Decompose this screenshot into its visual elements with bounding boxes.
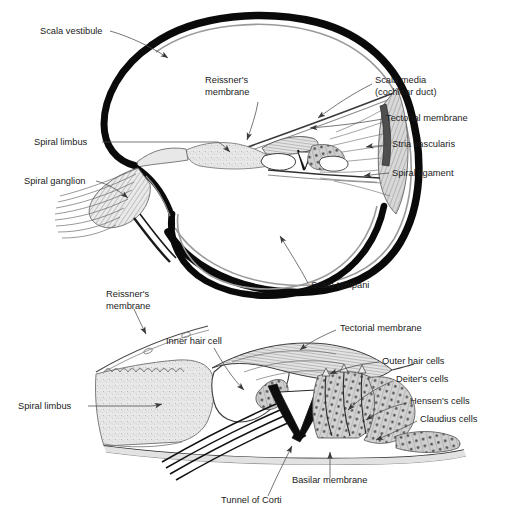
label-outer-hair-cells: Outer hair cells — [382, 356, 445, 366]
label-stria-vascularis: Stria vascularis — [392, 139, 455, 149]
label-reissners-membrane-lower: Reissner's membrane — [106, 289, 152, 311]
figure-canvas: Scala vestibule Reissner's membrane Scal… — [0, 0, 506, 523]
label-spiral-limbus: Spiral limbus — [34, 137, 88, 147]
label-tectorial-membrane-lower: Tectorial membrane — [340, 323, 422, 333]
label-reissners-membrane: Reissner's membrane — [205, 75, 251, 97]
spiral-limbus-lower — [95, 360, 214, 446]
label-deiters-cells: Deiter's cells — [396, 374, 449, 384]
label-scala-tympani: Scala tympani — [311, 280, 369, 290]
osseous-spiral-lamina — [137, 148, 188, 167]
inner-sulcus — [261, 154, 296, 171]
cochlear-nerve-trunk — [134, 218, 170, 262]
spiral-ganglion-mass — [89, 168, 150, 228]
label-claudius-cells: Claudius cells — [420, 414, 478, 424]
label-scala-media: Scala media (cochlear duct) — [375, 75, 437, 97]
label-basilar-membrane: Basilar membrane — [292, 475, 367, 485]
lower-panel: Reissner's membrane Inner hair cell Tect… — [18, 289, 478, 505]
label-scala-vestibuli: Scala vestibule — [40, 26, 103, 36]
reissner-cell-nucleus-1 — [143, 347, 153, 355]
claudius-cells-block — [396, 432, 460, 453]
label-spiral-ganglion: Spiral ganglion — [24, 176, 86, 186]
label-hensens-cells: Hensen's cells — [410, 396, 470, 406]
label-tectorial-membrane: Tectorial membrane — [386, 113, 468, 123]
outer-sulcus — [319, 156, 348, 171]
cochlea-figure: Scala vestibule Reissner's membrane Scal… — [0, 0, 506, 523]
upper-panel: Scala vestibule Reissner's membrane Scal… — [24, 16, 468, 296]
scala-vestibuli-wall — [104, 45, 152, 166]
label-inner-hair-cell: Inner hair cell — [166, 336, 222, 346]
label-spiral-ligament: Spiral ligament — [392, 168, 454, 178]
label-tunnel-of-corti: Tunnel of Corti — [221, 495, 282, 505]
label-spiral-limbus-lower: Spiral limbus — [18, 401, 72, 411]
